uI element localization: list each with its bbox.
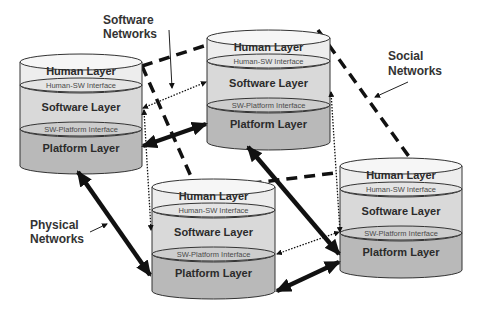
software-networks-label-line2: Networks <box>103 27 157 41</box>
human-layer-label: Human Layer <box>234 41 304 53</box>
platform-layer-label: Platform Layer <box>175 267 253 279</box>
sw-platform-interface-label: SW-Platform Interface <box>177 250 251 259</box>
platform-layer-label: Platform Layer <box>42 142 120 154</box>
software-network-edge-a-c <box>144 110 151 230</box>
human-layer-label: Human Layer <box>46 65 116 77</box>
software-layer-label: Software Layer <box>362 205 442 217</box>
physical-networks-pointer-arrow <box>90 224 107 232</box>
human-sw-interface-label: Human-SW Interface <box>178 206 248 215</box>
sw-platform-interface-label: SW-Platform Interface <box>364 229 438 238</box>
physical-networks-label-line2: Networks <box>30 232 84 246</box>
software-layer-label: Software Layer <box>174 226 254 238</box>
node-cylinder-c: Human LayerHuman-SW InterfaceSoftware La… <box>152 179 275 299</box>
human-layer-label: Human Layer <box>179 190 249 202</box>
software-network-edge-b-d <box>331 92 340 232</box>
platform-layer-label: Platform Layer <box>230 118 308 130</box>
human-sw-interface-label: Human-SW Interface <box>366 185 436 194</box>
physical-networks-callout: PhysicalNetworks <box>30 218 107 246</box>
software-layer-label: Software Layer <box>42 101 122 113</box>
social-networks-label-line2: Networks <box>388 64 442 78</box>
network-layers-diagram: Human LayerHuman-SW InterfaceSoftware La… <box>0 0 479 312</box>
node-cylinder-d: Human LayerHuman-SW InterfaceSoftware La… <box>340 158 462 278</box>
physical-network-edge-c-d <box>277 262 339 291</box>
human-layer-label: Human Layer <box>366 169 436 181</box>
social-network-edge-a-b <box>142 45 207 66</box>
software-networks-label-line1: Software <box>103 13 154 27</box>
social-networks-label-line1: Social <box>388 49 423 63</box>
physical-networks-label-line1: Physical <box>30 218 79 232</box>
physical-network-edge-a-b <box>143 124 206 146</box>
human-sw-interface-label: Human-SW Interface <box>46 81 116 90</box>
social-networks-callout: SocialNetworks <box>375 49 442 97</box>
software-networks-pointer-arrow <box>169 30 172 88</box>
sw-platform-interface-label: SW-Platform Interface <box>232 101 306 110</box>
platform-layer-label: Platform Layer <box>362 246 440 258</box>
node-cylinder-b: Human LayerHuman-SW InterfaceSoftware La… <box>207 30 330 150</box>
sw-platform-interface-label: SW-Platform Interface <box>44 125 118 134</box>
node-cylinder-a: Human LayerHuman-SW InterfaceSoftware La… <box>20 54 142 174</box>
social-networks-pointer-arrow <box>375 82 408 97</box>
physical-network-edge-a-c <box>78 172 150 275</box>
human-sw-interface-label: Human-SW Interface <box>233 57 303 66</box>
software-layer-label: Software Layer <box>229 77 309 89</box>
